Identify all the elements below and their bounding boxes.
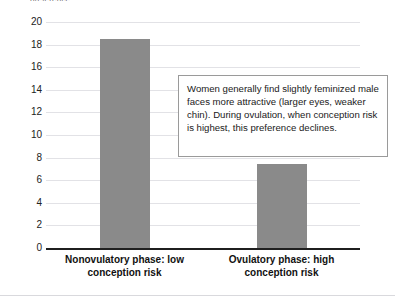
y-tick-label: 14 [12, 85, 42, 95]
x-axis-category-labels: Nonovulatory phase: low conception riskO… [46, 253, 360, 287]
y-tick-label: 20 [12, 17, 42, 27]
x-category-label: Ovulatory phase: high conception risk [207, 253, 356, 279]
bottom-divider [0, 295, 395, 296]
y-axis-tick-labels: 20181614121086420 [8, 0, 42, 302]
annotation-callout: Women generally find slightly feminized … [178, 75, 388, 157]
y-tick-label: 2 [12, 220, 42, 230]
y-tick-label: 8 [12, 153, 42, 163]
y-tick-label: 12 [12, 107, 42, 117]
y-tick-label: 10 [12, 130, 42, 140]
y-tick-label: 16 [12, 62, 42, 72]
y-tick-label: 0 [12, 243, 42, 253]
x-axis-line [46, 248, 360, 250]
bar[interactable] [100, 39, 150, 248]
y-tick-label: 6 [12, 175, 42, 185]
y-tick-label: 18 [12, 40, 42, 50]
y-tick-label: 4 [12, 198, 42, 208]
bar[interactable] [257, 164, 307, 248]
x-category-label: Nonovulatory phase: low conception risk [50, 253, 199, 279]
